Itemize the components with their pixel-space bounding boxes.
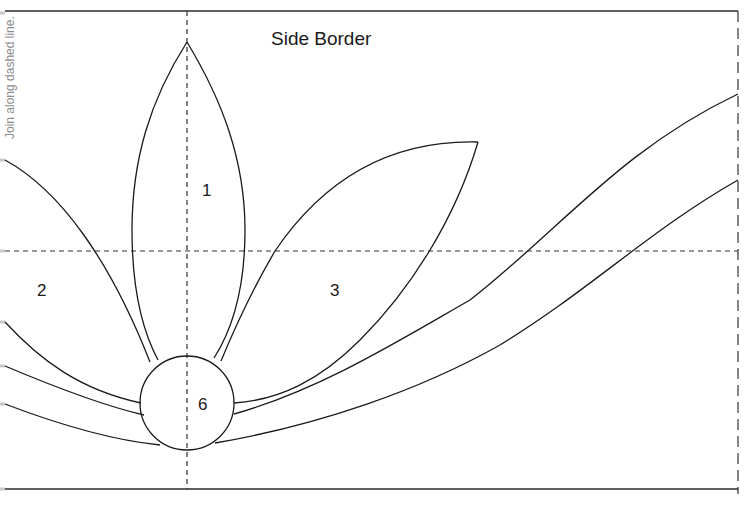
- petal-1-left-edge: [132, 42, 187, 360]
- petal-1-right-edge: [187, 42, 245, 358]
- piece-label-3: 3: [330, 281, 339, 301]
- piece-label-6: 6: [198, 395, 207, 415]
- left-stem-lower: [5, 404, 160, 445]
- petal-2-upper-edge: [5, 160, 150, 362]
- pattern-sheet: Side Border Join along dashed line. 1 2 …: [0, 0, 751, 508]
- right-stem-lower: [215, 180, 738, 443]
- right-stem-upper: [234, 94, 738, 414]
- piece-label-1: 1: [202, 181, 211, 201]
- pattern-drawing: [0, 0, 751, 508]
- pattern-title: Side Border: [271, 28, 371, 50]
- petal-2-lower-edge: [5, 322, 141, 403]
- left-stem-upper: [5, 366, 144, 415]
- piece-label-2: 2: [37, 281, 46, 301]
- join-instruction-note: Join along dashed line.: [3, 16, 17, 139]
